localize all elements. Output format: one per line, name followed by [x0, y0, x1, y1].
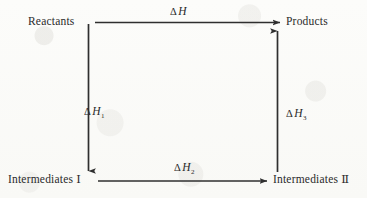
delta-symbol: Δ: [174, 162, 181, 173]
delta-symbol: Δ: [286, 108, 293, 119]
intermediates-2-numeral: Ⅱ: [338, 173, 349, 185]
enthalpy-symbol: H: [181, 161, 191, 173]
node-label-products: Products: [286, 16, 328, 28]
arrow-label-delta-h2: ΔH2: [174, 162, 195, 176]
node-label-intermediates-1: IntermediatesⅠ: [8, 174, 81, 186]
intermediates-2-text: Intermediates: [273, 173, 338, 185]
enthalpy-subscript: 3: [303, 114, 307, 122]
enthalpy-subscript: 1: [101, 112, 105, 120]
enthalpy-subscript: 2: [191, 168, 195, 176]
intermediates-1-text: Intermediates: [8, 173, 73, 185]
delta-symbol: Δ: [84, 106, 91, 117]
arrow-label-delta-h3: ΔH3: [286, 108, 307, 122]
enthalpy-symbol: H: [293, 107, 303, 119]
node-label-intermediates-2: IntermediatesⅡ: [273, 174, 349, 186]
delta-symbol: Δ: [170, 6, 177, 17]
enthalpy-subscript: [187, 12, 188, 20]
products-text: Products: [286, 15, 328, 27]
arrow-label-delta-h1: ΔH1: [84, 106, 105, 120]
hess-cycle-figure: Reactants Products IntermediatesⅠ Interm…: [0, 0, 367, 198]
enthalpy-symbol: H: [177, 5, 187, 17]
enthalpy-symbol: H: [91, 105, 101, 117]
reactants-text: Reactants: [28, 15, 75, 27]
node-label-reactants: Reactants: [28, 16, 75, 28]
intermediates-1-numeral: Ⅰ: [73, 173, 81, 185]
arrow-label-delta-h: ΔH: [170, 6, 187, 20]
